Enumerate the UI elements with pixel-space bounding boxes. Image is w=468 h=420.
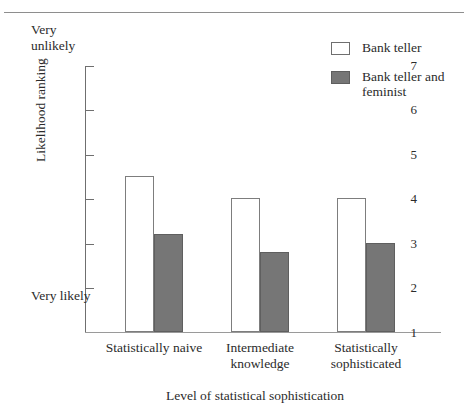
y-tick-3 <box>86 244 94 245</box>
legend-label-bank-teller: Bank teller <box>362 40 422 56</box>
bar-naive-bank-teller-and-feminist <box>154 234 183 332</box>
header-divider <box>4 12 464 13</box>
x-tick-label-intermediate-knowledge: Intermediate knowledge <box>200 340 320 372</box>
y-tick-4 <box>86 199 94 200</box>
x-axis-title: Level of statistical sophistication <box>85 388 425 404</box>
legend-swatch-open-icon <box>331 42 350 55</box>
y-tick-label-5: 5 <box>397 147 417 163</box>
y-tick-label-1: 1 <box>397 325 417 341</box>
y-tick-label-6: 6 <box>397 102 417 118</box>
bar-intermediate-bank-teller-and-feminist <box>260 252 289 332</box>
x-axis-line <box>85 332 425 333</box>
x-axis-line-extension <box>425 332 441 333</box>
bar-sophisticated-bank-teller <box>337 198 366 332</box>
legend-item-bank-teller: Bank teller <box>331 40 463 56</box>
y-tick-label-4: 4 <box>397 191 417 207</box>
plot-area: 7 6 5 4 3 2 1 Very unlikely Very likely … <box>85 66 425 333</box>
y-axis-title: Likelihood ranking <box>33 58 49 162</box>
y-tick-label-2: 2 <box>397 280 417 296</box>
x-tick-label-statistically-naive: Statistically naive <box>94 340 214 356</box>
y-axis-bottom-caption: Very likely <box>31 288 93 304</box>
y-tick-7 <box>86 66 94 67</box>
y-tick-6 <box>86 110 94 111</box>
bar-sophisticated-bank-teller-and-feminist <box>366 243 395 332</box>
chart-figure: Bank teller Bank teller and feminist 7 6… <box>0 0 468 420</box>
y-axis-top-caption: Very unlikely <box>31 22 93 53</box>
x-tick-label-statistically-sophisticated: Statistically sophisticated <box>306 340 426 372</box>
y-tick-5 <box>86 155 94 156</box>
bar-naive-bank-teller <box>125 176 154 332</box>
bar-intermediate-bank-teller <box>231 198 260 332</box>
y-tick-label-7: 7 <box>397 58 417 74</box>
y-tick-label-3: 3 <box>397 236 417 252</box>
